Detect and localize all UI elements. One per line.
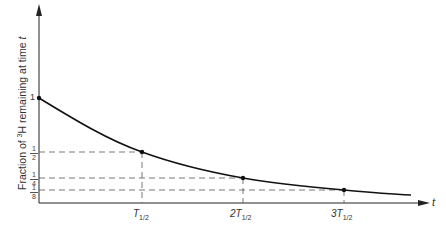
decay-curve bbox=[39, 98, 411, 195]
x-tick-1: T1/2 bbox=[133, 208, 149, 221]
decay-chart: Fraction of 3H remaining at time t 1 12 … bbox=[0, 0, 446, 228]
reference-lines bbox=[39, 152, 344, 203]
x-tick-3: 3T1/2 bbox=[331, 208, 352, 221]
y-axis-arrow-icon bbox=[36, 4, 42, 16]
x-tick-2: 2T1/2 bbox=[230, 208, 251, 221]
y-tick-half: 12 bbox=[30, 145, 38, 161]
y-tick-1: 1 bbox=[30, 92, 35, 102]
chart-plot bbox=[0, 0, 446, 228]
x-axis-arrow-icon bbox=[418, 200, 430, 206]
y-axis-label: Fraction of 3H remaining at time t bbox=[16, 33, 29, 193]
y-tick-eighth: 18 bbox=[30, 184, 38, 200]
x-axis-label: t bbox=[432, 196, 435, 208]
